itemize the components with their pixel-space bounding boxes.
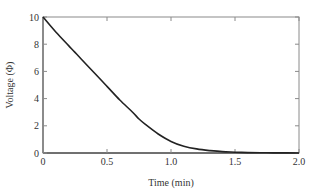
y-axis-title: Voltage (Φ) bbox=[4, 62, 16, 109]
y-tick-label: 2 bbox=[34, 120, 39, 131]
y-tick-label: 8 bbox=[34, 39, 39, 50]
plot-border bbox=[43, 17, 299, 153]
x-tick-labels: 00.51.01.52.0 bbox=[41, 156, 306, 167]
y-tick-label: 0 bbox=[34, 148, 39, 159]
plot-frame bbox=[43, 17, 299, 153]
x-tick-label: 1.5 bbox=[229, 156, 242, 167]
y-tick-label: 10 bbox=[29, 12, 39, 23]
x-tick-label: 0 bbox=[41, 156, 46, 167]
x-axis-title: Time (min) bbox=[148, 177, 193, 189]
axis-ticks bbox=[43, 17, 299, 153]
voltage-curve bbox=[43, 17, 299, 153]
x-tick-label: 0.5 bbox=[101, 156, 114, 167]
x-tick-label: 2.0 bbox=[293, 156, 306, 167]
y-tick-label: 6 bbox=[34, 66, 39, 77]
y-tick-labels: 0246810 bbox=[29, 12, 39, 159]
voltage-decay-chart: 00.51.01.52.0 0246810 Time (min) Voltage… bbox=[0, 0, 318, 194]
y-tick-label: 4 bbox=[34, 93, 39, 104]
x-tick-label: 1.0 bbox=[165, 156, 178, 167]
